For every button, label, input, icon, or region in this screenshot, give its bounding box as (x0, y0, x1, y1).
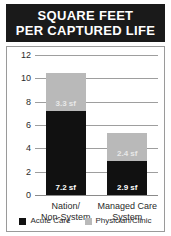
plot-frame: 024681012 3.3 sf7.2 sf2.4 sf2.9 sf Natio… (6, 46, 165, 232)
bar-segment[interactable]: 7.2 sf (46, 111, 86, 195)
legend-item[interactable]: Physician/Clinic (85, 217, 152, 225)
chart-figure: SQUARE FEET PER CAPTURED LIFE 024681012 … (0, 0, 171, 236)
x-axis-category-line: Managed Care (97, 201, 159, 212)
chart-title-banner: SQUARE FEET PER CAPTURED LIFE (6, 4, 165, 42)
legend-item[interactable]: Acute Care (19, 217, 70, 225)
plot-area: 024681012 3.3 sf7.2 sf2.4 sf2.9 sf (35, 55, 158, 195)
legend-label: Physician/Clinic (96, 217, 152, 225)
y-tick-label-10: 10 (21, 74, 31, 83)
bar-stack: 2.4 sf2.9 sf (107, 133, 147, 195)
gridline-0 (35, 195, 158, 196)
y-tick-label-6: 6 (26, 121, 31, 130)
chart-title-line-1: SQUARE FEET (38, 8, 134, 23)
bar-stack: 3.3 sf7.2 sf (46, 73, 86, 196)
bar-group[interactable]: 2.4 sf2.9 sf (107, 55, 147, 195)
chart-legend: Acute CarePhysician/Clinic (7, 217, 164, 225)
legend-swatch-icon (85, 218, 92, 225)
bar-segment[interactable]: 2.9 sf (107, 161, 147, 195)
y-tick-label-12: 12 (21, 51, 31, 60)
bar-value-label: 3.3 sf (46, 100, 86, 108)
y-tick-label-8: 8 (26, 97, 31, 106)
bar-group[interactable]: 3.3 sf7.2 sf (46, 55, 86, 195)
bar-value-label: 2.9 sf (107, 184, 147, 192)
bar-segment[interactable]: 2.4 sf (107, 133, 147, 161)
bar-value-label: 7.2 sf (46, 184, 86, 192)
y-tick-label-4: 4 (26, 144, 31, 153)
y-tick-label-0: 0 (26, 191, 31, 200)
bar-segment[interactable]: 3.3 sf (46, 73, 86, 112)
y-tick-label-2: 2 (26, 167, 31, 176)
x-axis-category-line: Nation/ (35, 201, 97, 212)
chart-title-line-2: PER CAPTURED LIFE (16, 23, 155, 38)
bar-value-label: 2.4 sf (107, 150, 147, 158)
legend-swatch-icon (19, 218, 26, 225)
legend-label: Acute Care (30, 217, 70, 225)
